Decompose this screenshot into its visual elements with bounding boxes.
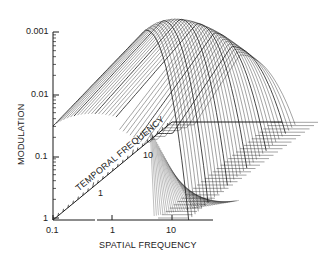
surface-mesh — [53, 19, 318, 220]
y-axis-title: MODULATION — [16, 104, 26, 165]
y-tick-label-1: 1 — [43, 214, 48, 223]
x-tick-label-01: 0.1 — [46, 226, 59, 235]
t-tick-label-1: 1 — [98, 189, 103, 198]
t-tick-label-10: 10 — [143, 151, 153, 160]
y-tick-label-01: 0.1 — [35, 152, 48, 161]
y-tick-label-001: 0.01 — [31, 90, 49, 99]
y-tick-label-0001: 0.001 — [26, 27, 49, 36]
surface-plot — [0, 0, 335, 259]
x-tick-label-10: 10 — [166, 226, 176, 235]
x-tick-label-1: 1 — [110, 226, 115, 235]
x-axis-title: SPATIAL FREQUENCY — [99, 240, 197, 250]
